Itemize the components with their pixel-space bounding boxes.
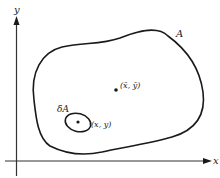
x-axis-label: x (213, 155, 219, 166)
element-point-label: (x, y) (91, 120, 111, 129)
centroid-diagram: y x A (x̄, ȳ) δA (x, y) (0, 0, 220, 178)
x-axis-arrow-icon (203, 158, 212, 164)
centroid-point (114, 88, 118, 92)
region-label: A (175, 28, 183, 39)
region-a-boundary (33, 30, 203, 154)
y-axis-arrow-icon (14, 16, 20, 25)
centroid-label: (x̄, ȳ) (120, 81, 140, 90)
element-label: δA (57, 104, 69, 114)
element-point (76, 120, 79, 123)
y-axis-label: y (13, 4, 20, 15)
